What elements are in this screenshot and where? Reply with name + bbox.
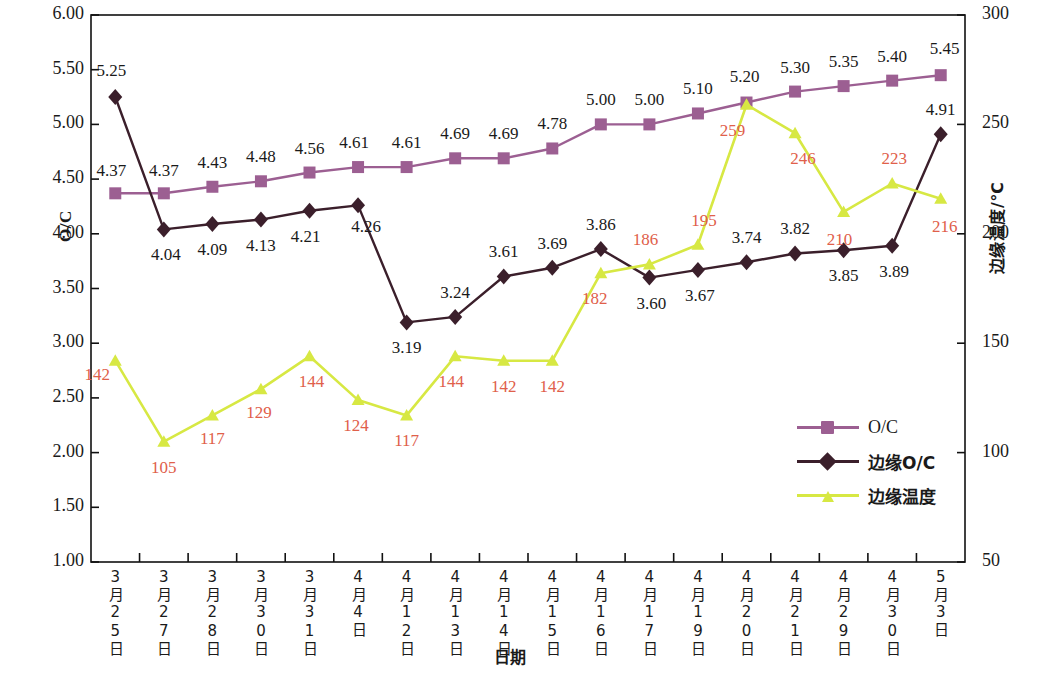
data-label: 142 xyxy=(540,377,566,397)
data-label: 5.30 xyxy=(780,58,810,78)
data-label: 4.61 xyxy=(339,133,369,153)
data-label: 4.69 xyxy=(489,124,519,144)
data-label: 124 xyxy=(343,416,369,436)
data-label: 117 xyxy=(200,429,225,449)
data-label: 4.69 xyxy=(440,124,470,144)
data-label: 117 xyxy=(394,431,419,451)
data-label: 5.00 xyxy=(586,90,616,110)
data-label: 5.20 xyxy=(730,67,760,87)
data-label: 3.67 xyxy=(685,286,715,306)
legend-label-edge-temp: 边缘温度 xyxy=(868,483,936,508)
data-label: 3.74 xyxy=(732,228,762,248)
data-label: 4.26 xyxy=(351,217,381,237)
data-label: 5.10 xyxy=(683,79,713,99)
data-label: 105 xyxy=(151,458,177,478)
data-label: 142 xyxy=(85,365,111,385)
data-label: 144 xyxy=(299,372,325,392)
legend-key-oc xyxy=(797,420,859,434)
data-label: 3.19 xyxy=(392,338,422,358)
data-label: 142 xyxy=(491,377,517,397)
data-label: 259 xyxy=(720,121,746,141)
data-label: 246 xyxy=(790,149,816,169)
data-label: 4.13 xyxy=(246,236,276,256)
data-label: 4.09 xyxy=(198,240,228,260)
data-label: 3.89 xyxy=(879,262,909,282)
data-label: 5.40 xyxy=(877,47,907,67)
data-label: 5.25 xyxy=(96,61,126,81)
legend-item-edge-temp[interactable]: 边缘温度 xyxy=(797,478,936,512)
data-label: 5.00 xyxy=(635,90,665,110)
data-label: 3.85 xyxy=(829,266,859,286)
data-label: 4.37 xyxy=(96,161,126,181)
data-label: 3.61 xyxy=(489,242,519,262)
legend-key-edge-temp xyxy=(797,488,859,502)
data-label: 4.43 xyxy=(198,153,228,173)
data-label: 186 xyxy=(633,230,659,250)
data-label: 4.56 xyxy=(295,139,325,159)
data-label: 195 xyxy=(691,211,717,231)
data-label: 3.86 xyxy=(586,215,616,235)
legend-key-edge-oc xyxy=(797,454,859,468)
legend-item-edge-oc[interactable]: 边缘O/C xyxy=(797,444,936,478)
legend-label-oc: O/C xyxy=(868,417,898,438)
data-label: 129 xyxy=(246,403,272,423)
chart-container: O/C 边缘温度/℃ 日期 6.005.505.004.504.003.503.… xyxy=(0,0,1046,674)
data-label: 4.04 xyxy=(151,245,181,265)
legend-label-edge-oc: 边缘O/C xyxy=(868,449,935,474)
plot-area xyxy=(0,0,1046,674)
data-label: 5.45 xyxy=(930,39,960,59)
data-label: 182 xyxy=(582,289,608,309)
data-label: 3.60 xyxy=(637,294,667,314)
data-label: 223 xyxy=(881,149,907,169)
data-label: 4.61 xyxy=(392,133,422,153)
series-oc xyxy=(109,69,946,199)
data-label: 4.37 xyxy=(149,161,179,181)
data-label: 210 xyxy=(827,230,853,250)
data-label: 5.35 xyxy=(829,52,859,72)
data-label: 216 xyxy=(932,217,958,237)
data-label: 4.91 xyxy=(926,100,956,120)
data-label: 3.82 xyxy=(780,219,810,239)
data-label: 4.78 xyxy=(537,114,567,134)
data-label: 4.48 xyxy=(246,147,276,167)
data-label: 4.21 xyxy=(291,227,321,247)
chart-legend: O/C 边缘O/C 边缘温度 xyxy=(797,410,936,512)
data-label: 3.69 xyxy=(537,234,567,254)
data-label: 3.24 xyxy=(440,283,470,303)
data-label: 144 xyxy=(438,372,464,392)
legend-item-oc[interactable]: O/C xyxy=(797,410,936,444)
series-edge-oc xyxy=(108,89,947,330)
